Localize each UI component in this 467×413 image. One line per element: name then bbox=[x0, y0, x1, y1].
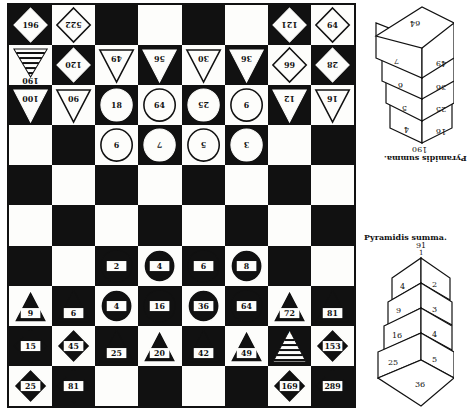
board-square[interactable]: 28 bbox=[311, 45, 354, 85]
circle-piece-icon[interactable]: 4 bbox=[95, 286, 138, 326]
board-square[interactable]: 120 bbox=[52, 45, 95, 85]
board-square[interactable]: 45 bbox=[52, 326, 95, 366]
circle-piece-icon[interactable]: 6 bbox=[182, 246, 225, 286]
board-square[interactable]: 64 bbox=[138, 85, 181, 125]
board-square[interactable] bbox=[225, 165, 268, 205]
board-square[interactable]: 25 bbox=[182, 85, 225, 125]
diamond-piece-icon[interactable]: 120 bbox=[52, 45, 95, 85]
triangle-up-piece-icon[interactable]: 49 bbox=[225, 326, 268, 366]
board-square[interactable] bbox=[225, 205, 268, 245]
diamond-piece-icon[interactable]: 121 bbox=[268, 5, 311, 45]
board-square[interactable]: 190 bbox=[9, 45, 52, 85]
board-square[interactable] bbox=[138, 366, 181, 406]
board-square[interactable]: 42 bbox=[182, 326, 225, 366]
triangle-down-piece-icon[interactable]: 56 bbox=[138, 45, 181, 85]
board-square[interactable]: 12 bbox=[268, 85, 311, 125]
board-square[interactable]: 121 bbox=[268, 5, 311, 45]
board-square[interactable]: 56 bbox=[138, 45, 181, 85]
board-square[interactable] bbox=[95, 165, 138, 205]
board-square[interactable] bbox=[9, 125, 52, 165]
board-square[interactable] bbox=[95, 5, 138, 45]
circle-piece-icon[interactable]: 9 bbox=[95, 125, 138, 165]
board-square[interactable] bbox=[138, 5, 181, 45]
board-square[interactable]: 169 bbox=[268, 366, 311, 406]
diamond-piece-icon[interactable]: 169 bbox=[268, 366, 311, 406]
board-square[interactable] bbox=[311, 205, 354, 245]
diamond-piece-icon[interactable]: 153 bbox=[311, 326, 354, 366]
board-square[interactable]: 81 bbox=[311, 286, 354, 326]
board-square[interactable] bbox=[225, 366, 268, 406]
triangle-down-piece-icon[interactable]: 12 bbox=[268, 85, 311, 125]
triangle-down-piece-icon[interactable]: 16 bbox=[311, 85, 354, 125]
board-square[interactable]: 20 bbox=[138, 326, 181, 366]
diamond-piece-icon[interactable]: 28 bbox=[311, 45, 354, 85]
board-square[interactable]: 4 bbox=[138, 246, 181, 286]
diamond-piece-icon[interactable]: 81 bbox=[52, 366, 95, 406]
circle-piece-icon[interactable]: 8 bbox=[225, 246, 268, 286]
board-square[interactable] bbox=[52, 205, 95, 245]
board-square[interactable]: 81 bbox=[52, 366, 95, 406]
board-square[interactable]: 153 bbox=[311, 326, 354, 366]
triangle-down-piece-icon[interactable]: 36 bbox=[225, 45, 268, 85]
circle-piece-icon[interactable]: 18 bbox=[95, 85, 138, 125]
diamond-piece-icon[interactable]: 196 bbox=[9, 5, 52, 45]
board-square[interactable]: 36 bbox=[182, 286, 225, 326]
board-square[interactable]: 6 bbox=[182, 246, 225, 286]
board-square[interactable] bbox=[182, 366, 225, 406]
board-square[interactable] bbox=[9, 246, 52, 286]
board-square[interactable]: 36 bbox=[225, 45, 268, 85]
board-square[interactable]: 4 bbox=[95, 286, 138, 326]
board-square[interactable]: 91 bbox=[268, 326, 311, 366]
board-square[interactable]: 64 bbox=[311, 5, 354, 45]
circle-piece-icon[interactable]: 2 bbox=[95, 246, 138, 286]
circle-piece-icon[interactable]: 5 bbox=[182, 125, 225, 165]
board-square[interactable]: 6 bbox=[52, 286, 95, 326]
triangle-down-piece-icon[interactable]: 49 bbox=[95, 45, 138, 85]
board-square[interactable] bbox=[182, 205, 225, 245]
triangle-down-piece-icon[interactable]: 90 bbox=[52, 85, 95, 125]
circle-piece-icon[interactable]: 64 bbox=[225, 286, 268, 326]
board-square[interactable] bbox=[95, 205, 138, 245]
circle-piece-icon[interactable]: 36 bbox=[182, 286, 225, 326]
diamond-piece-icon[interactable]: 289 bbox=[311, 366, 354, 406]
board-square[interactable]: 64 bbox=[225, 286, 268, 326]
triangle-down-piece-icon[interactable]: 100 bbox=[9, 85, 52, 125]
pyramid-piece-icon[interactable]: 91 bbox=[268, 326, 311, 366]
board-square[interactable]: 49 bbox=[95, 45, 138, 85]
board-square[interactable] bbox=[268, 246, 311, 286]
board-square[interactable]: 25 bbox=[9, 366, 52, 406]
board-square[interactable] bbox=[52, 125, 95, 165]
triangle-up-piece-icon[interactable]: 42 bbox=[182, 326, 225, 366]
board-square[interactable]: 2 bbox=[95, 246, 138, 286]
board-square[interactable]: 6 bbox=[225, 85, 268, 125]
board-square[interactable]: 3 bbox=[225, 125, 268, 165]
triangle-up-piece-icon[interactable]: 20 bbox=[138, 326, 181, 366]
diamond-piece-icon[interactable]: 15 bbox=[9, 326, 52, 366]
diamond-piece-icon[interactable]: 66 bbox=[268, 45, 311, 85]
board-square[interactable] bbox=[52, 165, 95, 205]
board-square[interactable]: 7 bbox=[138, 125, 181, 165]
board-square[interactable]: 5 bbox=[182, 125, 225, 165]
board-square[interactable] bbox=[9, 205, 52, 245]
board-square[interactable]: 90 bbox=[52, 85, 95, 125]
board-square[interactable]: 49 bbox=[225, 326, 268, 366]
board-square[interactable]: 18 bbox=[95, 85, 138, 125]
diamond-piece-icon[interactable]: 25 bbox=[9, 366, 52, 406]
board-square[interactable]: 522 bbox=[52, 5, 95, 45]
board-square[interactable] bbox=[52, 246, 95, 286]
circle-piece-icon[interactable]: 25 bbox=[182, 85, 225, 125]
board-square[interactable]: 9 bbox=[95, 125, 138, 165]
board-square[interactable] bbox=[311, 165, 354, 205]
board-square[interactable] bbox=[182, 165, 225, 205]
pyramid-piece-icon[interactable]: 190 bbox=[9, 45, 52, 85]
board-square[interactable]: 8 bbox=[225, 246, 268, 286]
circle-piece-icon[interactable]: 64 bbox=[138, 85, 181, 125]
board-square[interactable] bbox=[268, 205, 311, 245]
board-square[interactable] bbox=[95, 366, 138, 406]
triangle-up-piece-icon[interactable]: 81 bbox=[311, 286, 354, 326]
diamond-piece-icon[interactable]: 45 bbox=[52, 326, 95, 366]
board-square[interactable] bbox=[225, 5, 268, 45]
circle-piece-icon[interactable]: 6 bbox=[225, 85, 268, 125]
triangle-up-piece-icon[interactable]: 72 bbox=[268, 286, 311, 326]
board-square[interactable] bbox=[138, 205, 181, 245]
